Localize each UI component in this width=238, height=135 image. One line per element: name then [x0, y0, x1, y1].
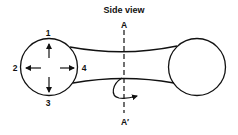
- curved-rotation-arrow-icon: [113, 78, 137, 98]
- arrow-label-3: 3: [46, 98, 51, 108]
- right-circle: [169, 39, 226, 96]
- side-view-diagram: Side view A A′ 1 2 3 4: [0, 0, 238, 135]
- diagram-title: Side view: [103, 5, 145, 15]
- arrow-label-2: 2: [13, 63, 18, 73]
- section-label-top: A: [121, 20, 127, 30]
- arrow-label-1: 1: [46, 28, 51, 38]
- section-label-bottom: A′: [121, 117, 129, 127]
- arrow-label-4: 4: [82, 63, 87, 73]
